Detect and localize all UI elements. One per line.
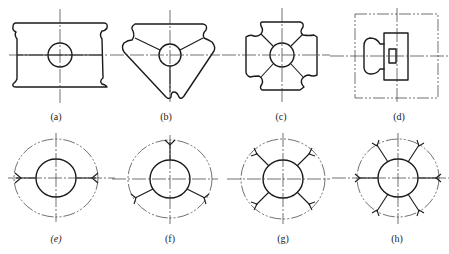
- panel-g-label: (g): [277, 233, 289, 245]
- panel-b: (b): [110, 10, 220, 123]
- panel-d: (d): [330, 8, 448, 123]
- panel-c-diag-line-3: [261, 64, 273, 77]
- panel-d-label: (d): [393, 111, 405, 123]
- panel-h-label: (h): [391, 233, 403, 245]
- panel-e-label: (e): [50, 233, 62, 245]
- panel-g-weld-upper-left: [256, 153, 269, 166]
- panel-h-weld-mark-lower-right: [417, 210, 424, 216]
- panel-b-label: (b): [160, 111, 172, 123]
- panel-c-diag-line-1: [261, 34, 273, 46]
- panel-b-body: [123, 24, 215, 99]
- panel-f-label: (f): [165, 233, 175, 245]
- panel-a-label: (a): [50, 111, 61, 123]
- panel-h-weld-lower-left: [377, 194, 388, 211]
- panel-c: (c): [222, 8, 330, 123]
- panel-f: (f): [112, 135, 218, 245]
- panel-c-label: (c): [275, 111, 286, 123]
- panel-g-weld-lower-right: [297, 192, 310, 205]
- panel-h-weld-lower-right: [408, 194, 419, 211]
- panel-f-weld-lower-right: [187, 189, 205, 198]
- panel-c-diag-line-2: [291, 34, 303, 46]
- panel-e: (e): [8, 133, 115, 245]
- panel-a: (a): [9, 9, 108, 123]
- panel-g: (g): [227, 133, 330, 245]
- panel-c-body: [246, 22, 317, 90]
- panel-f-weld-mark-lower-right: [204, 194, 209, 204]
- panel-h-weld-mark-lower-left: [372, 210, 379, 216]
- panel-b-radial-line-3: [180, 38, 203, 50]
- panel-h: (h): [332, 133, 449, 245]
- panel-h-weld-upper-left: [377, 145, 388, 162]
- panel-g-weld-lower-left: [256, 192, 269, 205]
- panel-h-weld-mark-upper-right: [417, 140, 424, 146]
- panel-c-diag-line-4: [291, 64, 303, 77]
- panel-h-weld-mark-upper-left: [372, 140, 379, 146]
- panel-f-weld-lower-left: [135, 189, 153, 198]
- panel-h-weld-upper-right: [408, 145, 419, 162]
- panel-g-weld-upper-right: [297, 153, 310, 166]
- panel-b-radial-line-2: [135, 38, 160, 50]
- figure-canvas: (a) (b) (c) (d): [0, 0, 449, 254]
